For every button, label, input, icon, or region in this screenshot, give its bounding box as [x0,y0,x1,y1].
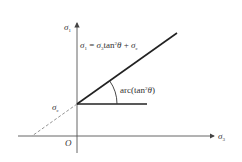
equation-label: σ1 = σ3tan2θ + σc [80,40,138,51]
angle-label: arc(tan2θ) [120,85,155,95]
x-axis-label: σ3 [218,131,225,142]
angle-arc [110,81,117,104]
origin-label: O [65,138,72,148]
y-axis-label: σ1 [64,22,71,33]
intercept-label: σc [52,102,59,113]
strength-diagram: σ1 σ3 O σc σ1 = σ3tan2θ + σc arc(tan2θ) [0,0,242,162]
